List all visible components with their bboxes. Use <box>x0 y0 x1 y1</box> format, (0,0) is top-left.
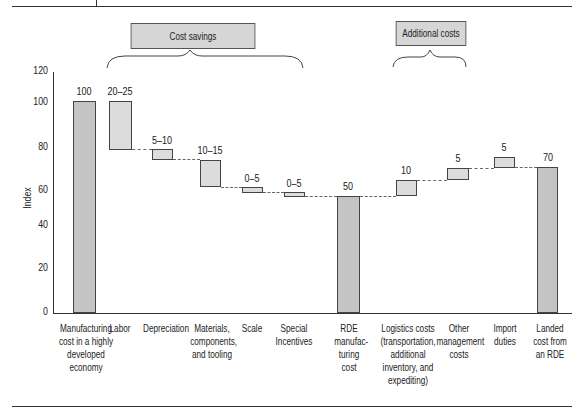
bottom-rule <box>12 406 572 407</box>
y-axis-line <box>53 72 54 313</box>
category-label: Special Incentives <box>274 322 315 348</box>
connector <box>305 196 337 197</box>
value-label: 10–15 <box>185 144 234 156</box>
category-label: Landed cost from an RDE <box>530 322 571 361</box>
value-label: 0–5 <box>269 177 318 189</box>
bar-import-duties <box>494 157 515 168</box>
y-tick-40: 40 <box>29 218 48 230</box>
connector <box>263 192 284 193</box>
category-label: Scale <box>235 322 269 335</box>
bar-materials <box>200 160 221 187</box>
y-tick-20: 20 <box>29 261 48 273</box>
connector <box>469 168 494 169</box>
y-tick-120: 120 <box>29 64 48 76</box>
bar-depreciation <box>152 149 173 160</box>
connector <box>515 167 537 168</box>
category-label: Materials, components, and tooling <box>190 322 234 361</box>
value-label: 10 <box>381 164 430 176</box>
category-label: Other management costs <box>436 322 481 361</box>
bar-logistics <box>396 180 417 196</box>
connector <box>173 159 200 160</box>
connector <box>221 187 242 188</box>
value-label: 50 <box>323 180 372 192</box>
bar-scale <box>242 187 263 193</box>
category-label: Labor <box>101 322 140 335</box>
y-tick-60: 60 <box>29 183 48 195</box>
category-label: Depreciation <box>143 322 190 335</box>
category-label: RDE manufac-turing cost <box>334 322 364 374</box>
y-tick-100: 100 <box>29 95 48 107</box>
category-label: Import duties <box>490 322 520 348</box>
value-label: 20–25 <box>95 85 144 97</box>
value-label: 70 <box>523 151 572 163</box>
bar-other-management <box>447 168 469 180</box>
category-label: Logistics costs (transportation, additio… <box>380 322 436 387</box>
y-tick-80: 80 <box>29 140 48 152</box>
value-label: 5 <box>433 152 482 164</box>
value-label: 5 <box>479 141 528 153</box>
bar-landed-cost <box>537 167 558 313</box>
x-axis-line <box>53 313 572 314</box>
y-tick-0: 0 <box>29 305 48 317</box>
value-label: 5–10 <box>137 134 186 146</box>
connector <box>132 149 152 150</box>
connector <box>360 196 396 197</box>
connector <box>417 180 447 181</box>
bar-manufacturing-cost-developed <box>73 101 96 313</box>
bar-special-incentives <box>284 192 305 197</box>
bar-rde-manufacturing-cost <box>337 196 360 313</box>
bar-labor <box>109 101 132 150</box>
